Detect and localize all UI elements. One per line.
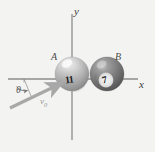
- ball-a-number: 11: [64, 74, 74, 85]
- ball-b: [90, 57, 124, 91]
- physics-figure: y x A B θ v0 11 7: [0, 0, 155, 152]
- figure-canvas: [0, 0, 155, 152]
- theta-label: θ: [16, 85, 21, 95]
- ball-a-label: A: [51, 52, 57, 62]
- y-axis-label: y: [74, 6, 79, 17]
- theta-reference-line: [24, 79, 31, 96]
- velocity-label: v0: [40, 97, 47, 108]
- ball-b-label: B: [115, 52, 121, 62]
- velocity-label-subscript: 0: [44, 101, 47, 108]
- x-axis-label: x: [139, 79, 144, 90]
